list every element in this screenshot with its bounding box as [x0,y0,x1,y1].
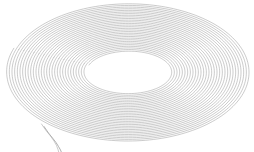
spiral-drawing [0,0,254,152]
spiral-figure-canvas [0,0,254,152]
background-rect [0,0,254,152]
